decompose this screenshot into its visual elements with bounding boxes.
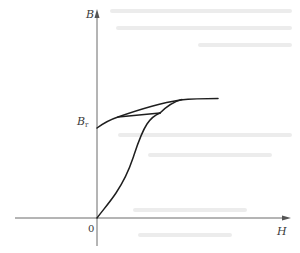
b-axis-label: B xyxy=(85,8,94,21)
b-axis-arrow-icon xyxy=(95,9,100,18)
initial-magnetization-curve xyxy=(97,113,160,218)
figure-canvas: B H 0 Br xyxy=(0,0,300,253)
background-bleed-through xyxy=(112,11,290,235)
h-axis-arrow-icon xyxy=(282,216,291,221)
origin-label: 0 xyxy=(88,223,94,234)
bh-diagram: B H 0 Br xyxy=(0,0,300,253)
h-axis-label: H xyxy=(276,225,287,238)
remanence-label: Br xyxy=(76,115,89,129)
